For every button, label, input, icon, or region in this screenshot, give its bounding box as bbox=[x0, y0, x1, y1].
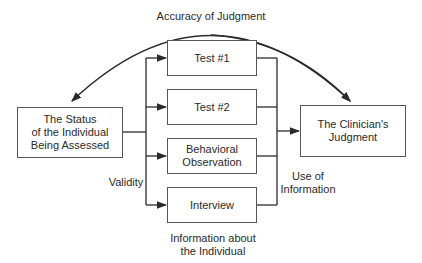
target-box: The Clinician's Judgment bbox=[300, 105, 406, 157]
method-box-test-2: Test #2 bbox=[167, 89, 257, 125]
validity-label: Validity bbox=[106, 176, 146, 189]
method-box-interview: Interview bbox=[167, 187, 257, 223]
information-about-label: Information about the Individual bbox=[165, 232, 261, 258]
use-of-information-label: Use of Information bbox=[280, 170, 336, 196]
method-box-behavioral: Behavioral Observation bbox=[167, 138, 257, 174]
method-box-test-1: Test #1 bbox=[167, 40, 257, 76]
source-box: The Status of the Individual Being Asses… bbox=[17, 107, 123, 158]
accuracy-label: Accuracy of Judgment bbox=[150, 10, 272, 23]
